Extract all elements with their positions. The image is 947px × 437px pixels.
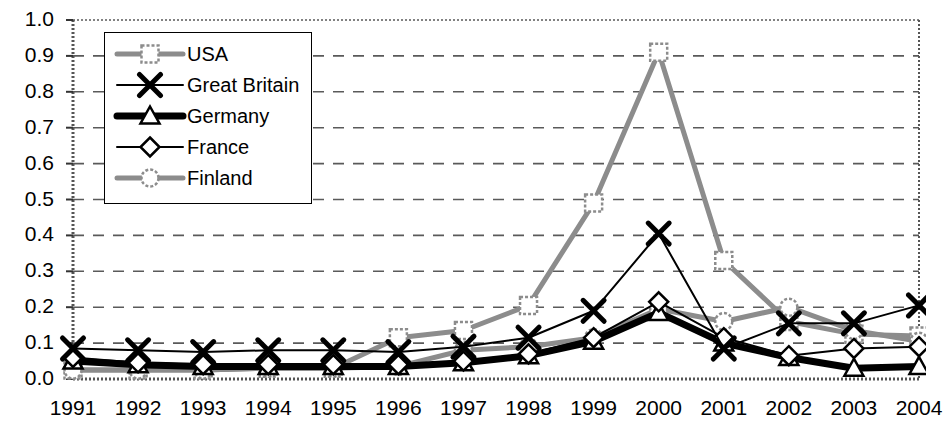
x-axis-tick-label: 1994 [236,396,300,420]
y-axis-tick-label: 0.4 [6,222,54,246]
legend-item-france: France [113,131,311,162]
x-axis-tick-label: 2004 [887,396,947,420]
x-axis-tick-label: 1996 [366,396,430,420]
legend-item-germany: Germany [113,100,311,131]
legend-marker-open-square [113,40,187,68]
x-axis-tick-label: 1992 [106,396,170,420]
legend-marker-x-cross [113,71,187,99]
data-point-marker [780,299,797,316]
x-axis-tick-label: 1995 [301,396,365,420]
legend-label: Great Britain [187,75,299,95]
legend-marker-open-triangle [113,102,187,130]
legend-marker-open-circle [113,164,187,192]
legend-label: Finland [187,168,253,188]
data-point-marker [142,45,159,62]
y-axis-tick-label: 0.6 [6,151,54,175]
y-axis-tick-label: 1.0 [6,7,54,31]
y-axis-tick-label: 0.5 [6,187,54,211]
legend-label: Germany [187,106,269,126]
data-point-marker [585,195,602,212]
y-axis-tick-label: 0.1 [6,330,54,354]
y-axis-tick-label: 0.2 [6,294,54,318]
legend-item-usa: USA [113,38,311,69]
data-point-marker [650,44,667,61]
data-point-marker [142,169,159,186]
y-axis-tick-label: 0.7 [6,115,54,139]
data-point-marker [455,322,472,339]
x-axis-tick-label: 1991 [41,396,105,420]
legend-marker-open-diamond [113,133,187,161]
chart-legend: USAGreat BritainGermanyFranceFinland [104,32,312,204]
y-axis-tick-label: 0.3 [6,258,54,282]
legend-label: USA [187,44,228,64]
x-axis-tick-label: 2002 [757,396,821,420]
x-axis-tick-label: 2003 [822,396,886,420]
y-axis-tick-label: 0.0 [6,366,54,390]
x-axis-tick-label: 1998 [497,396,561,420]
data-point-marker [141,137,160,156]
x-axis-tick-label: 2000 [627,396,691,420]
x-axis-tick-label: 2001 [692,396,756,420]
legend-item-finland: Finland [113,162,311,193]
y-axis-tick-label: 0.9 [6,43,54,67]
x-axis-tick-label: 1999 [562,396,626,420]
y-axis-tick-label: 0.8 [6,79,54,103]
x-axis-tick-label: 1997 [431,396,495,420]
data-point-marker [520,297,537,314]
legend-item-great-britain: Great Britain [113,69,311,100]
data-point-marker [715,252,732,269]
legend-label: France [187,137,249,157]
x-axis-tick-label: 1993 [171,396,235,420]
